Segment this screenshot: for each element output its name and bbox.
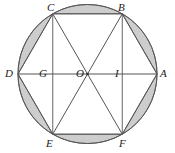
point-label-A: A [160,68,167,79]
point-label-I: I [115,68,119,79]
point-label-E: E [46,138,53,149]
geometry-figure: C B D G O I A E F [0,0,175,153]
point-label-B: B [118,2,125,13]
point-label-O: O [76,68,84,79]
point-label-G: G [39,68,47,79]
figure-canvas [0,0,175,153]
point-label-F: F [119,138,126,149]
point-label-D: D [5,68,13,79]
center-point-O [86,73,89,76]
point-label-C: C [47,2,54,13]
